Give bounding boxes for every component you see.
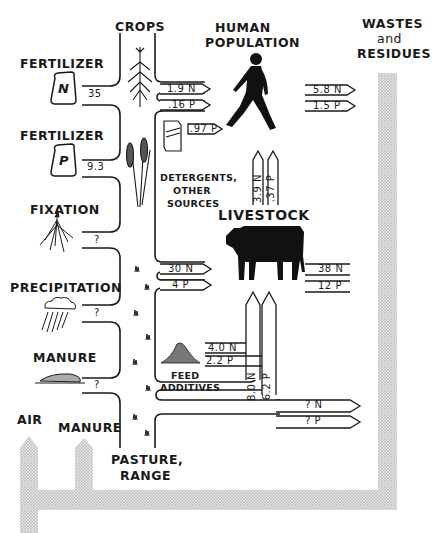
fertilizer-n-label: FERTILIZER [20, 56, 104, 71]
detergents-label-line1: DETERGENTS, [160, 172, 237, 183]
flow-crops-human-n: 1.9 N [167, 83, 196, 94]
flow-precipitation: ? [94, 307, 100, 318]
flow-fertilizer-n: 35 [88, 88, 102, 99]
manure-output-label: MANURE [58, 420, 122, 435]
bag-n-letter: N [58, 81, 69, 96]
air-label: AIR [17, 412, 42, 427]
human-population-label-line2: POPULATION [205, 35, 300, 50]
flow-livestock-wastes-p: 12 P [318, 280, 342, 291]
livestock-label: LIVESTOCK [218, 208, 310, 223]
fixation-label: FIXATION [30, 202, 100, 217]
flow-fixation: ? [94, 234, 100, 245]
human-walking-icon [226, 53, 276, 130]
additives-label: ADDITIVES [160, 382, 220, 393]
grass-tufts-icon [133, 266, 150, 436]
flow-pasture-livestock-n: 8.0 N [246, 372, 257, 401]
detergent-box-icon [164, 121, 181, 151]
flow-crops-human-p: .16 P [168, 99, 196, 110]
feed-additive-pile-icon [161, 343, 200, 363]
flow-livestock-wastes-n: 38 N [318, 263, 343, 274]
flow-pasture-wastes-n: ? N [305, 399, 322, 410]
range-label: RANGE [120, 468, 171, 483]
manure-pile-icon [35, 374, 85, 383]
flow-crops-livestock-n: 30 N [168, 263, 193, 274]
flow-human-wastes-n: 5.8 N [313, 84, 342, 95]
flow-detergents-p: .97 P [190, 123, 218, 134]
fertilizer-p-label: FERTILIZER [20, 128, 104, 143]
precipitation-label: PRECIPITATION [10, 280, 122, 295]
wastes-label: WASTES [362, 16, 423, 31]
flow-pasture-wastes-p: ? P [305, 415, 321, 426]
residues-label: RESIDUES [357, 46, 431, 61]
flow-feed-additives-p: 2.2 P [206, 355, 234, 366]
diagram-artwork [0, 0, 435, 533]
manure-input-label: MANURE [33, 350, 97, 365]
and-label: and [377, 31, 402, 46]
wheat-icon [127, 138, 151, 207]
human-population-label-line1: HUMAN [215, 20, 271, 35]
flow-livestock-human-n: 3.9 N [252, 174, 263, 203]
flow-pasture-livestock-p: 6.2 P [261, 373, 272, 401]
bag-p-letter: P [59, 153, 69, 168]
feed-label: FEED [171, 370, 200, 381]
flow-human-wastes-p: 1.5 P [313, 100, 341, 111]
flow-feed-additives-n: 4.0 N [208, 342, 237, 353]
corn-plant-icon [128, 47, 152, 107]
rain-cloud-icon [42, 297, 76, 332]
root-nodules-icon [40, 212, 73, 252]
pasture-label: PASTURE, [111, 452, 183, 467]
crops-label: CROPS [115, 19, 165, 34]
detergents-label-line3: SOURCES [167, 198, 219, 209]
cow-icon [226, 226, 305, 280]
flow-crops-livestock-p: 4 P [172, 279, 189, 290]
flow-manure: ? [94, 379, 100, 390]
detergents-label-line2: OTHER [173, 185, 211, 196]
flow-livestock-human-p: .37 P [265, 175, 276, 203]
flow-fertilizer-p: 9.3 [87, 161, 104, 172]
